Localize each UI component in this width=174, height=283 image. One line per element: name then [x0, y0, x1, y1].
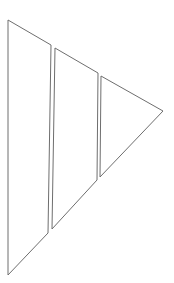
sliced-triangle-diagram	[0, 0, 174, 283]
right-segment	[100, 76, 163, 177]
left-segment	[8, 20, 51, 275]
middle-segment	[52, 48, 98, 229]
